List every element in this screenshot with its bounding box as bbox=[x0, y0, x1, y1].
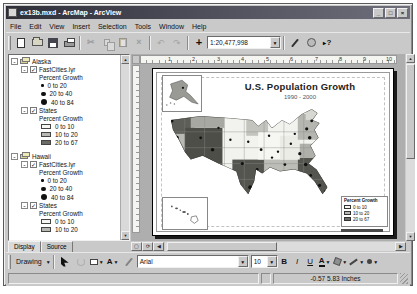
scroll-up-icon[interactable]: ▲ bbox=[406, 54, 415, 63]
chevron-down-icon[interactable]: ▼ bbox=[326, 259, 331, 265]
underline-button[interactable]: U bbox=[304, 255, 317, 268]
menu-window[interactable]: Window bbox=[155, 22, 188, 31]
fill-color-button[interactable]: ▼ bbox=[333, 254, 349, 270]
layout-view-button[interactable]: ⟳ bbox=[142, 242, 153, 251]
chevron-down-icon[interactable]: ▼ bbox=[342, 259, 347, 265]
add-data-button[interactable]: + bbox=[191, 35, 207, 51]
toc-legend-heading: Percent Growth bbox=[11, 114, 119, 122]
chevron-down-icon[interactable]: ▼ bbox=[99, 259, 104, 265]
resize-grip[interactable] bbox=[400, 273, 408, 284]
layout-vertical-scrollbar[interactable]: ▲ ▼ bbox=[406, 54, 415, 241]
menu-file[interactable]: File bbox=[6, 22, 25, 31]
marker-color-button[interactable]: ▼ bbox=[365, 254, 381, 270]
layer-checkbox[interactable]: ✓ bbox=[30, 202, 37, 209]
chevron-down-icon[interactable]: ▼ bbox=[359, 259, 364, 265]
chevron-down-icon[interactable]: ▼ bbox=[46, 259, 51, 265]
collapse-icon[interactable]: - bbox=[11, 58, 18, 65]
italic-button[interactable]: I bbox=[291, 255, 304, 268]
data-view-button[interactable]: ▢ bbox=[131, 242, 142, 251]
select-elements-button[interactable] bbox=[57, 254, 73, 270]
redo-button: ↷ bbox=[169, 35, 185, 51]
toc-class-row: 10 to 20 bbox=[11, 131, 119, 139]
layer-checkbox[interactable]: ✓ bbox=[30, 66, 37, 73]
vertical-scroll-thumb[interactable] bbox=[406, 64, 415, 159]
menu-tools[interactable]: Tools bbox=[131, 22, 155, 31]
tab-source[interactable]: Source bbox=[41, 241, 73, 252]
menu-view[interactable]: View bbox=[45, 22, 68, 31]
drawing-toolbar: Drawing ▼ ▼ A▼ Arial ▼ 10 ▼ B I U A▼ ▼ ▼… bbox=[6, 252, 410, 270]
collapse-icon[interactable]: - bbox=[21, 107, 28, 114]
minimize-button[interactable]: _ bbox=[373, 8, 384, 18]
font-family-combo[interactable]: Arial ▼ bbox=[137, 255, 249, 268]
font-color-button[interactable]: A▼ bbox=[317, 254, 333, 270]
hawaii-inset-frame[interactable] bbox=[162, 197, 208, 230]
chevron-down-icon[interactable]: ▼ bbox=[270, 37, 280, 48]
layer-checkbox[interactable]: ✓ bbox=[30, 161, 37, 168]
bold-button[interactable]: B bbox=[278, 255, 291, 268]
tools-button[interactable] bbox=[303, 35, 319, 51]
menu-help[interactable]: Help bbox=[188, 22, 210, 31]
toc-layer-fastcities[interactable]: - ✓ FastCities.lyr bbox=[11, 65, 119, 73]
paint-bucket-icon bbox=[333, 257, 342, 266]
group-name: Alaska bbox=[32, 58, 51, 65]
scroll-right-icon[interactable]: ▶ bbox=[395, 242, 406, 251]
save-button[interactable] bbox=[45, 35, 61, 51]
chevron-down-icon[interactable]: ▼ bbox=[114, 259, 119, 265]
horizontal-scroll-track[interactable] bbox=[165, 242, 395, 251]
layout-view[interactable]: 1 2 3 4 5 6 7 8 9 10 U.S. Population Gro… bbox=[131, 54, 405, 241]
medium-dot-symbol bbox=[41, 92, 46, 97]
menu-selection[interactable]: Selection bbox=[94, 22, 131, 31]
menu-insert[interactable]: Insert bbox=[68, 22, 94, 31]
toc-legend-heading: Percent Growth bbox=[11, 73, 119, 81]
open-button[interactable] bbox=[29, 35, 45, 51]
toc-scrollbar[interactable]: ▲ ▼ bbox=[120, 55, 129, 240]
mid-swatch bbox=[344, 211, 351, 215]
toc-class-row: 20 to 40 bbox=[11, 185, 119, 193]
tab-display[interactable]: Display bbox=[8, 241, 41, 252]
toc-layer-states[interactable]: - ✓ States bbox=[11, 201, 119, 209]
horizontal-scroll-thumb[interactable] bbox=[167, 242, 277, 251]
group-name: Hawaii bbox=[32, 153, 51, 160]
scroll-down-icon[interactable]: ▼ bbox=[121, 231, 130, 240]
chevron-down-icon[interactable]: ▼ bbox=[267, 256, 277, 267]
close-button[interactable]: × bbox=[397, 8, 408, 18]
map-scale-combo[interactable]: 1:20,477,998 ▼ bbox=[207, 36, 281, 49]
toolbar-grip[interactable] bbox=[8, 36, 11, 50]
new-document-button[interactable] bbox=[13, 35, 29, 51]
scroll-left-icon[interactable]: ◀ bbox=[153, 242, 164, 251]
chevron-down-icon[interactable]: ▼ bbox=[373, 259, 378, 265]
toc-layer-states[interactable]: - ✓ States bbox=[11, 106, 119, 114]
font-size-combo[interactable]: 10 ▼ bbox=[251, 255, 278, 268]
toolbar-grip[interactable] bbox=[8, 255, 11, 269]
print-button[interactable] bbox=[61, 35, 77, 51]
whats-this-help-button[interactable]: ? bbox=[319, 35, 335, 51]
editor-toolbar-button[interactable] bbox=[287, 35, 303, 51]
toc-group-alaska[interactable]: - Alaska bbox=[11, 57, 119, 65]
chevron-down-icon[interactable]: ▼ bbox=[238, 256, 248, 267]
toc-group-hawaii[interactable]: - Hawaii bbox=[11, 152, 119, 160]
collapse-icon[interactable]: - bbox=[11, 153, 18, 160]
ruler-number: 9 bbox=[363, 56, 366, 62]
drawing-menu-button[interactable]: Drawing bbox=[13, 258, 45, 265]
maximize-button[interactable]: □ bbox=[385, 8, 396, 18]
map-title[interactable]: U.S. Population Growth bbox=[211, 81, 389, 92]
scroll-down-icon[interactable]: ▼ bbox=[406, 232, 415, 241]
font-family-value: Arial bbox=[138, 258, 238, 265]
text-tool-button[interactable]: A▼ bbox=[105, 254, 121, 270]
layer-checkbox[interactable]: ✓ bbox=[30, 107, 37, 114]
help-arrow-question-icon: ? bbox=[323, 38, 332, 47]
title-bar[interactable]: ex13b.mxd - ArcMap - ArcView _ □ × bbox=[6, 6, 410, 19]
layout-page[interactable]: U.S. Population Growth 1990 - 2000 bbox=[152, 68, 394, 236]
menu-edit[interactable]: Edit bbox=[25, 22, 45, 31]
class-label: 0 to 10 bbox=[55, 218, 74, 225]
scroll-up-icon[interactable]: ▲ bbox=[121, 55, 130, 64]
collapse-icon[interactable]: - bbox=[21, 161, 28, 168]
collapse-icon[interactable]: - bbox=[21, 66, 28, 73]
map-subtitle[interactable]: 1990 - 2000 bbox=[211, 94, 389, 100]
collapse-icon[interactable]: - bbox=[21, 202, 28, 209]
map-legend[interactable]: Percent Growth 0 to 10 10 to 20 20 to 67 bbox=[341, 196, 388, 227]
shape-tool-button[interactable]: ▼ bbox=[89, 254, 105, 270]
toc-layer-fastcities[interactable]: - ✓ FastCities.lyr bbox=[11, 160, 119, 168]
line-color-button[interactable]: ▼ bbox=[349, 254, 365, 270]
ruler-number: 5 bbox=[266, 56, 269, 62]
